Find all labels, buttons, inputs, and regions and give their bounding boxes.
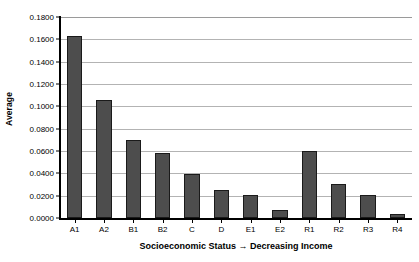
bar-a1	[67, 36, 82, 218]
x-axis-tick-mark	[280, 220, 281, 223]
bar-r1	[302, 151, 317, 218]
x-axis-tick-label-b2: B2	[158, 225, 168, 234]
y-axis-tick-label: 0.0200	[30, 191, 54, 200]
y-axis-tick-label: 0.0000	[30, 214, 54, 223]
bar-r3	[360, 195, 375, 218]
bar-e2	[272, 210, 287, 218]
y-axis-tick-label: 0.1400	[30, 57, 54, 66]
x-axis-tick-mark	[397, 220, 398, 223]
y-axis-tick-labels: 0.18000.16000.14000.12000.10000.08000.06…	[14, 0, 58, 262]
x-axis-tick-labels: A1A2B1B2CDE1E2R1R2R3R4	[60, 225, 412, 239]
x-axis-tick-mark	[75, 220, 76, 223]
y-axis-tick-label: 0.1000	[30, 102, 54, 111]
x-axis-tick-marks	[60, 220, 412, 224]
x-axis-tick-label-d: D	[218, 225, 224, 234]
y-axis-tick-label: 0.1200	[30, 80, 54, 89]
x-axis-tick-mark	[251, 220, 252, 223]
y-axis-tick-label: 0.0800	[30, 124, 54, 133]
bar-series	[60, 17, 412, 218]
bar-e1	[243, 195, 258, 218]
x-axis-tick-label-r2: R2	[334, 225, 344, 234]
x-axis-tick-label-a1: A1	[70, 225, 80, 234]
bar-a2	[96, 100, 111, 218]
x-axis-tick-mark	[309, 220, 310, 223]
bar-r2	[331, 184, 346, 218]
x-axis-tick-mark	[192, 220, 193, 223]
bar-chart: Average 0.18000.16000.14000.12000.10000.…	[0, 0, 419, 262]
x-axis-tick-label-e2: E2	[275, 225, 285, 234]
y-axis-tick-label: 0.0600	[30, 147, 54, 156]
x-axis-tick-label-c: C	[189, 225, 195, 234]
bar-b1	[126, 140, 141, 218]
y-axis-tick-label: 0.1800	[30, 13, 54, 22]
x-axis-title: Socioeconomic Status → Decreasing Income	[60, 241, 412, 251]
x-axis-tick-mark	[339, 220, 340, 223]
x-axis-tick-label-r3: R3	[363, 225, 373, 234]
x-axis-tick-mark	[163, 220, 164, 223]
y-axis-tick-label: 0.0400	[30, 169, 54, 178]
x-axis-tick-label-e1: E1	[246, 225, 256, 234]
bar-b2	[155, 153, 170, 218]
x-axis-tick-mark	[133, 220, 134, 223]
y-axis-tick-label: 0.1600	[30, 35, 54, 44]
x-axis-tick-label-b1: B1	[128, 225, 138, 234]
x-axis-tick-mark	[104, 220, 105, 223]
y-axis-title-label: Average	[4, 92, 14, 126]
bar-r4	[390, 214, 405, 218]
x-axis-tick-label-a2: A2	[99, 225, 109, 234]
bar-d	[214, 190, 229, 218]
x-axis-tick-mark	[368, 220, 369, 223]
x-axis-tick-label-r4: R4	[392, 225, 402, 234]
x-axis-tick-mark	[221, 220, 222, 223]
bar-c	[184, 174, 199, 218]
x-axis-tick-label-r1: R1	[304, 225, 314, 234]
